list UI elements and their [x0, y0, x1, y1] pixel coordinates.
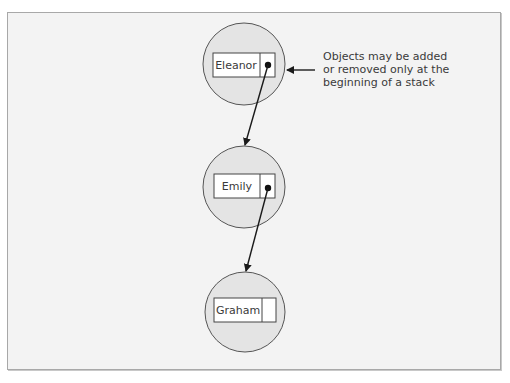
node-label: Graham	[216, 304, 260, 317]
stack-node-emily: Emily	[203, 146, 285, 228]
stack-diagram: Eleanor Emily Graham Objects may be adde…	[0, 0, 510, 383]
callout-line-3: beginning of a stack	[323, 76, 435, 89]
callout-text: Objects may be added or removed only at …	[323, 50, 450, 89]
stack-node-eleanor: Eleanor	[203, 23, 285, 105]
callout-line-1: Objects may be added	[323, 50, 447, 63]
node-label: Eleanor	[215, 59, 257, 72]
stack-node-graham: Graham	[205, 272, 285, 352]
callout-line-2: or removed only at the	[323, 63, 450, 76]
node-label: Emily	[222, 180, 253, 193]
